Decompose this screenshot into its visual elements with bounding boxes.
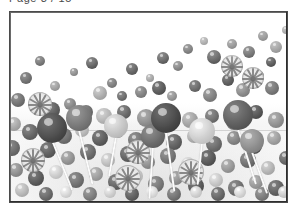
candy-ball (265, 81, 279, 95)
candy-photograph (10, 12, 287, 202)
candy-ball (135, 86, 147, 98)
candy-ball (35, 56, 45, 66)
candy-ball (189, 80, 201, 92)
candy-ball (39, 187, 53, 201)
document-page: Page 3 / 15 (0, 0, 299, 216)
lollipop-head (189, 118, 215, 144)
candy-ball (207, 50, 221, 64)
candy-ball (211, 187, 225, 201)
swirl-lollipop (221, 55, 243, 77)
candy-ball (10, 140, 20, 156)
lollipop-head (151, 103, 181, 133)
candy-ball (20, 72, 32, 84)
candy-ball (183, 44, 193, 54)
candy-ball (93, 86, 107, 100)
candy-ball (261, 161, 275, 175)
swirl-lollipop (115, 165, 141, 191)
candy-ball (258, 31, 268, 41)
candy-ball (157, 52, 169, 64)
candy-ball (50, 81, 60, 91)
candy-ball (227, 39, 237, 49)
candy-ball (10, 117, 21, 131)
candy-ball (28, 170, 44, 186)
candy-ball (22, 124, 38, 140)
candy-ball (126, 63, 138, 75)
candy-ball (15, 183, 29, 197)
candy-ball (104, 186, 116, 198)
candy-ball (200, 150, 216, 166)
lollipop-head (240, 129, 264, 153)
candy-ball (152, 81, 166, 95)
page-caption: Page 3 / 15 (9, 0, 72, 4)
candy-ball (209, 173, 223, 187)
photo-frame (9, 11, 288, 203)
candy-ball (11, 93, 25, 107)
swirl-lollipop (21, 148, 45, 172)
candy-ball (117, 91, 127, 101)
candy-ball (83, 187, 97, 201)
candy-ball (70, 68, 78, 76)
lollipop-head (223, 100, 253, 130)
candy-ball (167, 91, 177, 101)
candy-ball (146, 74, 154, 82)
candy-ball (267, 131, 281, 145)
candy-ball (221, 159, 235, 173)
candy-ball (173, 61, 183, 71)
candy-ball (282, 26, 287, 34)
lollipop-head (66, 105, 92, 131)
candy-ball (266, 57, 276, 67)
candy-ball (270, 41, 282, 53)
candy-ball (190, 186, 202, 198)
candy-ball (200, 37, 208, 45)
candy-ball (107, 78, 117, 88)
candy-ball (243, 46, 255, 58)
candy-ball (203, 88, 217, 102)
candy-ball (234, 186, 246, 198)
candy-ball (278, 186, 287, 198)
candy-ball (61, 151, 75, 165)
candy-ball (279, 151, 287, 165)
lollipop-head (37, 113, 67, 143)
candy-ball (268, 112, 284, 128)
swirl-lollipop (242, 67, 264, 89)
candy-ball (86, 57, 98, 69)
candy-ball (10, 163, 23, 177)
lollipop-head (104, 114, 128, 138)
